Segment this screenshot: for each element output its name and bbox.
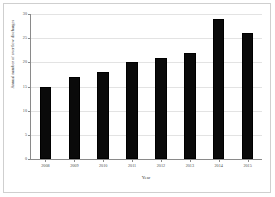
bar — [69, 77, 81, 159]
gridline — [31, 38, 262, 39]
y-tick-label: 10 — [23, 109, 27, 113]
y-tick-mark — [28, 159, 31, 160]
x-tick-label: 2013 — [186, 164, 194, 168]
y-axis-title: Annual number of overflow discharges — [11, 0, 15, 119]
x-tick-mark — [161, 159, 162, 162]
bar-chart-figure: Annual number of overflow discharges 051… — [0, 0, 275, 197]
y-tick-label: 25 — [23, 36, 27, 40]
bar — [126, 62, 138, 159]
bar — [213, 19, 225, 159]
x-tick-mark — [74, 159, 75, 162]
y-tick-label: 30 — [23, 12, 27, 16]
x-tick-label: 2009 — [70, 164, 78, 168]
x-tick-label: 2010 — [99, 164, 107, 168]
x-tick-mark — [248, 159, 249, 162]
gridline — [31, 62, 262, 63]
gridline — [31, 14, 262, 15]
x-tick-mark — [45, 159, 46, 162]
x-tick-label: 2012 — [157, 164, 165, 168]
x-tick-label: 2011 — [128, 164, 136, 168]
bar — [97, 72, 109, 159]
y-tick-mark — [28, 62, 31, 63]
bar — [242, 33, 254, 159]
y-tick-mark — [28, 14, 31, 15]
y-tick-label: 0 — [25, 157, 27, 161]
y-tick-mark — [28, 111, 31, 112]
y-tick-mark — [28, 135, 31, 136]
x-tick-label: 2008 — [41, 164, 49, 168]
x-tick-label: 2015 — [243, 164, 251, 168]
gridline — [31, 111, 262, 112]
y-tick-label: 5 — [25, 133, 27, 137]
gridline — [31, 135, 262, 136]
y-tick-mark — [28, 87, 31, 88]
bar — [184, 53, 196, 159]
y-tick-label: 15 — [23, 84, 27, 88]
x-tick-label: 2014 — [215, 164, 223, 168]
x-axis-title: Year — [30, 176, 262, 181]
bar — [155, 58, 167, 160]
bar — [40, 87, 52, 160]
x-tick-mark — [219, 159, 220, 162]
x-tick-mark — [190, 159, 191, 162]
gridline — [31, 87, 262, 88]
y-tick-label: 20 — [23, 60, 27, 64]
y-tick-mark — [28, 38, 31, 39]
plot-area: 0510152025302008200920102011201220132014… — [30, 14, 262, 160]
x-tick-mark — [103, 159, 104, 162]
x-tick-mark — [132, 159, 133, 162]
